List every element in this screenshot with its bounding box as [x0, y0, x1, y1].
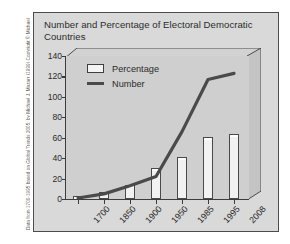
chart-legend: Percentage Number: [87, 61, 159, 91]
y-axis-label: 140: [38, 51, 62, 61]
legend-label-percentage: Percentage: [112, 64, 159, 74]
x-axis-label-1950: 1950: [169, 204, 190, 225]
legend-item-number: Number: [87, 76, 159, 91]
x-axis-tick: [234, 200, 235, 204]
x-axis-label-1900: 1900: [143, 204, 164, 225]
x-axis-label-1700: 1700: [91, 204, 112, 225]
legend-label-number: Number: [112, 79, 145, 89]
x-axis-label-1985: 1985: [195, 204, 216, 225]
x-axis-tick: [182, 200, 183, 204]
legend-line-swatch-icon: [87, 82, 104, 85]
chart-title: Number and Percentage of Electoral Democ…: [44, 19, 254, 43]
y-axis-label: 0: [38, 194, 62, 204]
x-axis-label-1850: 1850: [117, 204, 138, 225]
legend-bar-swatch-icon: [87, 64, 104, 73]
y-axis-label: 100: [38, 92, 62, 102]
x-axis-tick: [208, 200, 209, 204]
x-axis-tick: [156, 200, 157, 204]
x-axis-tick: [130, 200, 131, 204]
plot-area: 020406080100120140 170018501900195019851…: [65, 48, 261, 200]
source-credit: Data from 1700-1995 based on Global Tren…: [0, 12, 30, 234]
x-axis-label-1995: 1995: [221, 204, 242, 225]
chart-figure: Data from 1700-1995 based on Global Tren…: [0, 0, 290, 244]
y-axis-label: 40: [38, 153, 62, 163]
x-axis-tick: [104, 200, 105, 204]
y-axis-tick: [62, 199, 66, 200]
number-line-path: [78, 73, 234, 198]
x-axis-label-2008: 2008: [247, 204, 268, 225]
plot-sidewall-3d: [247, 48, 261, 200]
source-credit-text: Data from 1700-1995 based on Global Tren…: [26, 14, 30, 230]
legend-item-percentage: Percentage: [87, 61, 159, 76]
x-axis-tick: [78, 200, 79, 204]
y-axis-label: 120: [38, 71, 62, 81]
chart-panel: Number and Percentage of Electoral Democ…: [33, 12, 279, 232]
y-axis-label: 80: [38, 112, 62, 122]
y-axis-label: 60: [38, 133, 62, 143]
y-axis-label: 20: [38, 174, 62, 184]
